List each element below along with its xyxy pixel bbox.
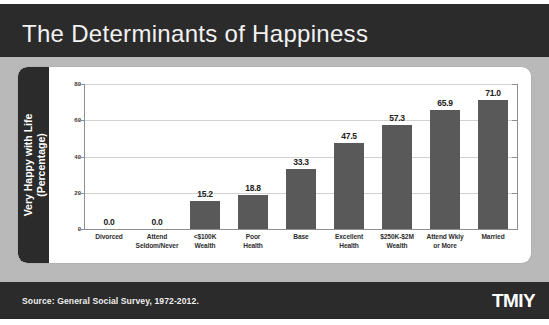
bar[interactable] [478, 100, 508, 229]
x-label-line1: <$100K [194, 233, 217, 240]
x-axis-category-label: <$100KWealth [181, 233, 229, 261]
tmiy-logo: TMIY [492, 290, 535, 312]
bar-group[interactable]: 18.8 [229, 84, 277, 229]
bar-value-label: 57.3 [373, 113, 421, 123]
y-axis-tick-mark [79, 229, 84, 230]
x-label-line1: Married [481, 233, 504, 240]
y-axis-tick-mark [79, 120, 84, 121]
x-axis-category-label: Divorced [85, 233, 133, 261]
y-axis-tick-labels: 020406080 [61, 67, 81, 263]
bar-group[interactable]: 15.2 [181, 84, 229, 229]
x-label-line1: Excellent [335, 233, 363, 240]
x-axis-category-label: PoorHealth [229, 233, 277, 261]
x-label-line2: Wealth [195, 242, 216, 249]
y-axis-tick-mark [79, 157, 84, 158]
x-label-line1: Divorced [95, 233, 122, 240]
bar-value-label: 71.0 [469, 88, 517, 98]
y-axis-title-line2: (Percentage) [34, 133, 46, 197]
bar[interactable] [190, 201, 220, 229]
bottom-white-strip [0, 319, 549, 325]
x-axis-category-label: Married [469, 233, 517, 261]
y-axis-tick-mark [79, 84, 84, 85]
x-axis-tick-labels: DivorcedAttendSeldom/Never<$100KWealthPo… [85, 233, 517, 261]
x-axis-category-label: Attend Wklyor More [421, 233, 469, 261]
x-label-line2: or More [433, 242, 456, 249]
bar-series: 0.00.015.218.833.347.557.365.971.0 [85, 84, 517, 229]
bar-group[interactable]: 0.0 [133, 84, 181, 229]
bar-value-label: 0.0 [85, 217, 133, 227]
x-label-line2: Health [243, 242, 263, 249]
x-label-line1: Attend Wkly [427, 233, 464, 240]
x-label-line2: Seldom/Never [136, 242, 179, 249]
x-label-line1: Base [293, 233, 308, 240]
slide-header-bar: The Determinants of Happiness [0, 4, 549, 57]
plot-wrapper: 020406080 0.00.015.218.833.347.557.365.9… [49, 67, 531, 263]
bar-value-label: 47.5 [325, 131, 373, 141]
y-axis-title-line1: Very Happy with Life [21, 114, 33, 217]
bar[interactable] [334, 143, 364, 229]
x-axis-category-label: $250K-$2MWealth [373, 233, 421, 261]
bar-group[interactable]: 57.3 [373, 84, 421, 229]
x-label-line1: Poor [246, 233, 261, 240]
y-axis-title: Very Happy with Life (Percentage) [21, 114, 46, 217]
x-axis-category-label: AttendSeldom/Never [133, 233, 181, 261]
slide-body: Very Happy with Life (Percentage) 020406… [0, 57, 549, 272]
slide-footer-bar: Source: General Social Survey, 1972-2012… [0, 282, 549, 319]
bar-group[interactable]: 47.5 [325, 84, 373, 229]
bar-value-label: 0.0 [133, 217, 181, 227]
bar-value-label: 65.9 [421, 98, 469, 108]
bar-value-label: 15.2 [181, 189, 229, 199]
page-title: The Determinants of Happiness [22, 20, 368, 48]
bar-group[interactable]: 0.0 [85, 84, 133, 229]
x-axis-category-label: Base [277, 233, 325, 261]
slide-canvas: The Determinants of Happiness Very Happy… [0, 0, 549, 325]
y-axis-tick-mark [79, 193, 84, 194]
bar-group[interactable]: 65.9 [421, 84, 469, 229]
y-axis-title-strip: Very Happy with Life (Percentage) [18, 67, 49, 263]
x-label-line2: Health [339, 242, 359, 249]
source-note: Source: General Social Survey, 1972-2012… [22, 296, 199, 306]
bar-value-label: 18.8 [229, 183, 277, 193]
x-label-line2: Wealth [387, 242, 408, 249]
right-axis-tick-mark [512, 229, 518, 230]
bar-value-label: 33.3 [277, 157, 325, 167]
bar[interactable] [382, 125, 412, 229]
bar[interactable] [430, 110, 460, 229]
x-axis-category-label: ExcellentHealth [325, 233, 373, 261]
bar[interactable] [238, 195, 268, 229]
bar[interactable] [286, 169, 316, 229]
x-label-line1: Attend [147, 233, 167, 240]
chart-card: Very Happy with Life (Percentage) 020406… [18, 67, 531, 263]
x-label-line1: $250K-$2M [380, 233, 414, 240]
bar-group[interactable]: 33.3 [277, 84, 325, 229]
bar-group[interactable]: 71.0 [469, 84, 517, 229]
